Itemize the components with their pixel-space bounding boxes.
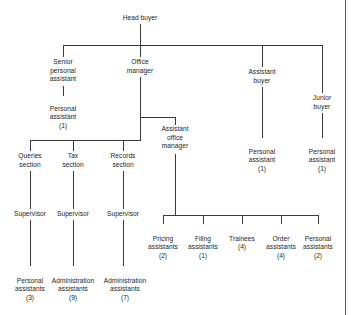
node-junior-buyer: Junior buyer	[313, 94, 331, 111]
node-count: (1)	[50, 122, 76, 131]
node-count: (1)	[188, 252, 218, 261]
node-trainees: Trainees (4)	[229, 226, 255, 260]
node-tax-section: Tax section	[62, 152, 83, 169]
edge-sections-bus	[30, 140, 141, 141]
edge-supervisor-to-administration-assistants-tax	[73, 220, 74, 266]
edge-supervisor-to-personal-assistants	[30, 220, 31, 266]
node-label: Administration assistants	[52, 277, 94, 293]
edge-aom-bus	[163, 215, 319, 216]
node-label: Assistant buyer	[248, 68, 275, 84]
node-label: Supervisor	[107, 210, 139, 217]
node-senior-personal-assistant: Senior personal assistant	[50, 58, 76, 84]
edge-drop-junior-buyer	[322, 45, 323, 93]
edge-records-to-supervisor	[123, 171, 124, 209]
edge-office-manager-stem	[140, 77, 141, 140]
page-frame-rule	[345, 0, 346, 315]
node-assistant-buyer: Assistant buyer	[248, 68, 275, 85]
edge-tax-to-supervisor	[73, 171, 74, 209]
edge-drop-filing-assistants	[203, 215, 204, 224]
edge-top-bus	[63, 45, 323, 46]
node-supervisor-records: Supervisor	[107, 210, 139, 219]
node-count: (2)	[303, 252, 333, 261]
node-label: Trainees	[229, 235, 255, 242]
node-label: Order assistants	[266, 235, 296, 251]
edge-aom-stem	[175, 154, 176, 215]
node-order-assistants: Order assistants (4)	[266, 226, 296, 269]
node-assistant-office-manager: Assistant office manager	[161, 125, 188, 151]
node-label: Senior personal assistant	[50, 58, 76, 82]
edge-drop-queries-section	[30, 140, 31, 151]
node-records-section: Records section	[111, 152, 136, 169]
node-label: Filing assistants	[188, 235, 218, 251]
node-personal-assistants-aom: Personal assistants (2)	[303, 226, 333, 269]
node-label: Junior buyer	[313, 94, 331, 110]
node-administration-assistants-records: Administration assistants (7)	[104, 268, 146, 311]
node-personal-assistants-queries: Personal assistants (3)	[15, 268, 45, 311]
node-head-buyer: Head buyer	[123, 14, 158, 23]
edge-drop-trainees	[242, 215, 243, 224]
node-count: (7)	[104, 294, 146, 303]
node-administration-assistants-tax: Administration assistants (9)	[52, 268, 94, 311]
node-label: Office manager	[127, 58, 153, 74]
node-label: Personal assistants	[303, 235, 333, 251]
node-filing-assistants: Filing assistants (1)	[188, 226, 218, 269]
edge-drop-personal-assistants-aom	[318, 215, 319, 224]
edge-drop-assistant-office-manager	[175, 117, 176, 125]
node-label: Personal assistant	[249, 148, 275, 164]
edge-office-manager-to-aom-bus	[140, 117, 176, 118]
node-pricing-assistants: Pricing assistants (2)	[148, 226, 178, 269]
node-count: (9)	[52, 294, 94, 303]
edge-junior-buyer-to-pa	[322, 113, 323, 138]
node-office-manager: Office manager	[127, 58, 153, 75]
node-count: (1)	[249, 165, 275, 174]
edge-supervisor-to-administration-assistants-records	[123, 220, 124, 266]
node-count: (4)	[266, 252, 296, 261]
node-label: Records section	[111, 152, 136, 168]
edge-drop-senior-pa	[63, 45, 64, 57]
node-supervisor-queries: Supervisor	[14, 210, 46, 219]
edge-drop-order-assistants	[281, 215, 282, 224]
node-personal-assistant-junior-buyer: Personal assistant (1)	[309, 139, 335, 182]
node-label: Pricing assistants	[148, 235, 178, 251]
node-label: Supervisor	[14, 210, 46, 217]
edge-drop-assistant-buyer	[262, 45, 263, 67]
edge-queries-to-supervisor	[30, 171, 31, 209]
node-personal-assistant-senior: Personal assistant (1)	[50, 96, 76, 139]
node-count: (3)	[15, 294, 45, 303]
node-label: Queries section	[18, 152, 41, 168]
edge-drop-records-section	[123, 140, 124, 151]
node-queries-section: Queries section	[18, 152, 41, 169]
node-count: (1)	[309, 165, 335, 174]
node-supervisor-tax: Supervisor	[57, 210, 89, 219]
edge-drop-office-manager	[140, 45, 141, 57]
node-label: Head buyer	[123, 14, 158, 21]
edge-head-buyer-stem	[140, 24, 141, 45]
node-label: Personal assistants	[15, 277, 45, 293]
edge-assistant-buyer-to-pa	[262, 87, 263, 138]
node-label: Administration assistants	[104, 277, 146, 293]
edge-drop-tax-section	[73, 140, 74, 151]
node-label: Supervisor	[57, 210, 89, 217]
node-label: Personal assistant	[309, 148, 335, 164]
node-personal-assistant-assistant-buyer: Personal assistant (1)	[249, 139, 275, 182]
organisation-chart: Head buyer Senior personal assistant Off…	[0, 0, 360, 315]
edge-senior-pa-to-pa	[63, 86, 64, 96]
edge-drop-pricing-assistants	[163, 215, 164, 224]
node-label: Tax section	[62, 152, 83, 168]
node-label: Assistant office manager	[161, 125, 188, 149]
node-label: Personal assistant	[50, 105, 76, 121]
node-count: (2)	[148, 252, 178, 261]
node-count: (4)	[229, 243, 255, 252]
